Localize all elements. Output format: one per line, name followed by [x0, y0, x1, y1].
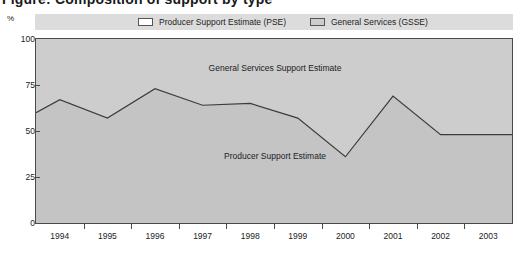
- y-tick-label-75: 75: [11, 80, 35, 90]
- y-tick-mark-75: [35, 85, 40, 86]
- x-tick-label-2000: 2000: [336, 231, 355, 241]
- x-tick-mark-2003: [464, 224, 465, 229]
- y-tick-mark-25: [35, 177, 40, 178]
- x-tick-label-1999: 1999: [288, 231, 307, 241]
- x-tick-mark-2002: [417, 224, 418, 229]
- chart-figure: Figure: Composition of support by type P…: [0, 0, 527, 258]
- x-tick-label-1997: 1997: [193, 231, 212, 241]
- legend-item-pse[interactable]: Producer Support Estimate (PSE): [138, 17, 286, 27]
- page-title: Figure: Composition of support by type: [2, 0, 272, 7]
- y-tick-mark-50: [35, 131, 40, 132]
- x-tick-label-1998: 1998: [241, 231, 260, 241]
- legend-swatch-open-icon: [138, 18, 153, 26]
- y-tick-label-100: 100: [11, 34, 35, 44]
- x-tick-mark-2001: [369, 224, 370, 229]
- x-tick-mark-1996: [131, 224, 132, 229]
- x-tick-label-1996: 1996: [146, 231, 165, 241]
- x-tick-mark-1995: [84, 224, 85, 229]
- y-tick-label-50: 50: [11, 126, 35, 136]
- legend-label-gsse: General Services (GSSE): [331, 17, 428, 27]
- legend-swatch-filled-icon: [310, 18, 325, 26]
- x-tick-mark-1998: [226, 224, 227, 229]
- y-tick-label-0: 0: [11, 218, 35, 228]
- x-tick-label-1994: 1994: [50, 231, 69, 241]
- x-tick-label-2003: 2003: [479, 231, 498, 241]
- chart-legend: Producer Support Estimate (PSE) General …: [35, 14, 513, 30]
- y-tick-label-25: 25: [11, 172, 35, 182]
- x-tick-label-2001: 2001: [384, 231, 403, 241]
- x-tick-mark-1997: [179, 224, 180, 229]
- x-tick-label-2002: 2002: [431, 231, 450, 241]
- y-axis: 0255075100: [0, 0, 35, 258]
- chart-title-strip: Figure: Composition of support by type: [0, 0, 527, 9]
- annotation-gsse: General Services Support Estimate: [209, 63, 342, 73]
- x-tick-mark-2000: [322, 224, 323, 229]
- plot-area: General Services Support Estimate Produc…: [35, 38, 513, 224]
- x-tick-mark-1999: [274, 224, 275, 229]
- legend-item-gsse[interactable]: General Services (GSSE): [310, 17, 428, 27]
- x-tick-label-1995: 1995: [98, 231, 117, 241]
- legend-label-pse: Producer Support Estimate (PSE): [159, 17, 286, 27]
- annotation-pse: Producer Support Estimate: [224, 151, 326, 161]
